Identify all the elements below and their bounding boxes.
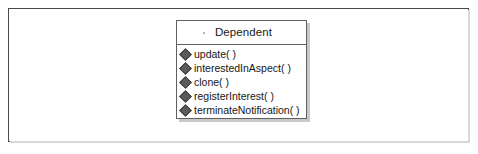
figure-canvas: Dependent update( ) interestedInAspect( … bbox=[0, 0, 478, 154]
class-header: Dependent bbox=[177, 21, 306, 45]
operation-label: registerInterest( ) bbox=[194, 91, 274, 102]
diamond-icon bbox=[180, 49, 191, 60]
class-name-label: Dependent bbox=[211, 27, 272, 39]
operation-label: interestedInAspect( ) bbox=[194, 63, 291, 74]
operation-label: update( ) bbox=[194, 49, 236, 60]
header-speck-artifact bbox=[203, 32, 205, 34]
diamond-icon bbox=[180, 77, 191, 88]
diamond-icon bbox=[180, 91, 191, 102]
operation-row[interactable]: update( ) bbox=[177, 47, 306, 61]
operation-row[interactable]: clone( ) bbox=[177, 75, 306, 89]
diamond-icon bbox=[180, 105, 191, 116]
operation-row[interactable]: registerInterest( ) bbox=[177, 89, 306, 103]
diamond-icon bbox=[180, 63, 191, 74]
operations-compartment: update( ) interestedInAspect( ) clone( )… bbox=[177, 45, 306, 117]
operation-row[interactable]: interestedInAspect( ) bbox=[177, 61, 306, 75]
uml-class-box-dependent[interactable]: Dependent update( ) interestedInAspect( … bbox=[176, 20, 307, 119]
operation-label: terminateNotification( ) bbox=[194, 105, 300, 116]
operation-label: clone( ) bbox=[194, 77, 229, 88]
operation-row[interactable]: terminateNotification( ) bbox=[177, 103, 306, 117]
